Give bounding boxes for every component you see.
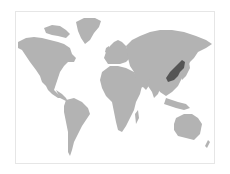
australia <box>174 114 202 140</box>
land-layer <box>18 18 212 156</box>
new-zealand <box>205 140 210 148</box>
greenland <box>76 18 101 44</box>
arctic-islands <box>44 25 70 38</box>
madagascar <box>135 110 139 124</box>
north-america <box>18 37 76 98</box>
world-map <box>0 0 230 174</box>
india <box>148 78 162 98</box>
south-america <box>64 98 90 156</box>
southeast-asia-islands <box>164 98 190 110</box>
